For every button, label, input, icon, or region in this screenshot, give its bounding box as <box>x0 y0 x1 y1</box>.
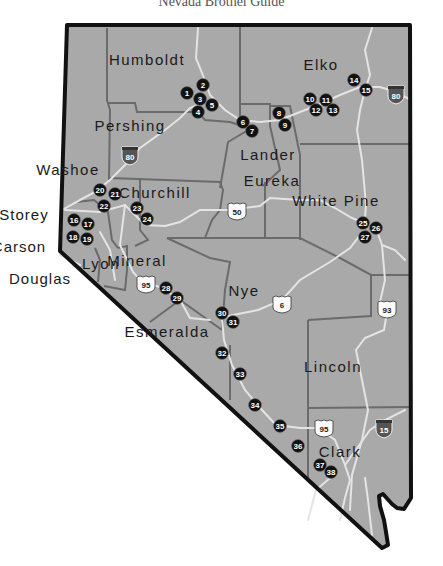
county-label: Eureka <box>244 172 301 189</box>
county-label: Churchill <box>119 184 191 201</box>
svg-text:2: 2 <box>201 81 206 90</box>
location-marker[interactable]: 31 <box>227 316 240 329</box>
us-highway-shield-icon: 95 <box>315 420 333 437</box>
county-label: Lander <box>240 146 296 163</box>
location-marker[interactable]: 38 <box>325 466 338 479</box>
location-marker[interactable]: 23 <box>131 202 144 215</box>
svg-text:37: 37 <box>316 461 325 470</box>
location-marker[interactable]: 4 <box>192 106 205 119</box>
us-highway-shield-icon: 95 <box>137 276 155 293</box>
location-marker[interactable]: 35 <box>274 420 287 433</box>
svg-text:6: 6 <box>280 301 285 310</box>
interstate-shield-icon: 80 <box>122 147 138 165</box>
location-marker[interactable]: 15 <box>360 84 373 97</box>
location-marker[interactable]: 27 <box>359 231 372 244</box>
location-marker[interactable]: 5 <box>206 99 219 112</box>
svg-text:34: 34 <box>251 401 260 410</box>
nevada-map: HumboldtElkoPershingLanderWashoeChurchil… <box>0 0 443 566</box>
svg-text:35: 35 <box>276 422 285 431</box>
location-marker[interactable]: 29 <box>171 292 184 305</box>
location-marker[interactable]: 16 <box>68 214 81 227</box>
svg-text:5: 5 <box>210 101 215 110</box>
svg-text:38: 38 <box>327 468 336 477</box>
location-marker[interactable]: 9 <box>279 119 292 132</box>
svg-text:6: 6 <box>241 118 246 127</box>
svg-text:50: 50 <box>233 208 242 217</box>
location-marker[interactable]: 18 <box>67 231 80 244</box>
svg-text:21: 21 <box>111 190 120 199</box>
location-marker[interactable]: 33 <box>234 368 247 381</box>
location-marker[interactable]: 37 <box>314 459 327 472</box>
svg-text:4: 4 <box>196 108 201 117</box>
svg-text:30: 30 <box>218 309 227 318</box>
svg-text:20: 20 <box>96 186 105 195</box>
svg-text:15: 15 <box>362 86 371 95</box>
svg-text:9: 9 <box>283 121 288 130</box>
svg-text:24: 24 <box>143 215 152 224</box>
county-label: Humboldt <box>109 51 185 68</box>
svg-text:12: 12 <box>312 106 321 115</box>
location-marker[interactable]: 28 <box>160 282 173 295</box>
location-marker[interactable]: 17 <box>82 218 95 231</box>
location-marker[interactable]: 26 <box>370 222 383 235</box>
county-label: Mineral <box>107 252 167 269</box>
svg-text:27: 27 <box>361 233 370 242</box>
svg-text:15: 15 <box>380 426 389 435</box>
county-label: Douglas <box>9 270 71 287</box>
location-marker[interactable]: 7 <box>246 125 259 138</box>
location-marker[interactable]: 34 <box>249 399 262 412</box>
svg-text:31: 31 <box>229 318 238 327</box>
location-marker[interactable]: 8 <box>273 107 286 120</box>
location-marker[interactable]: 1 <box>181 87 194 100</box>
svg-text:95: 95 <box>142 281 151 290</box>
svg-text:7: 7 <box>250 127 255 136</box>
location-marker[interactable]: 20 <box>94 184 107 197</box>
interstate-shield-icon: 15 <box>376 420 392 438</box>
svg-text:17: 17 <box>84 220 93 229</box>
svg-text:14: 14 <box>350 76 359 85</box>
location-marker[interactable]: 32 <box>216 347 229 360</box>
interstate-shield-icon: 80 <box>388 86 404 104</box>
svg-text:22: 22 <box>100 202 109 211</box>
location-marker[interactable]: 25 <box>357 217 370 230</box>
county-label: Carson <box>0 238 46 255</box>
svg-text:16: 16 <box>70 216 79 225</box>
location-marker[interactable]: 2 <box>197 79 210 92</box>
svg-text:23: 23 <box>133 204 142 213</box>
location-marker[interactable]: 3 <box>194 93 207 106</box>
svg-text:13: 13 <box>329 106 338 115</box>
svg-text:1: 1 <box>185 89 190 98</box>
svg-text:8: 8 <box>277 109 282 118</box>
county-label: Lincoln <box>304 358 362 375</box>
svg-text:33: 33 <box>236 370 245 379</box>
svg-text:28: 28 <box>162 284 171 293</box>
location-marker[interactable]: 21 <box>109 188 122 201</box>
svg-text:29: 29 <box>173 294 182 303</box>
county-label: Clark <box>319 443 362 460</box>
svg-text:32: 32 <box>218 349 227 358</box>
county-label: Storey <box>0 206 49 223</box>
county-label: Nye <box>228 282 259 299</box>
svg-text:80: 80 <box>126 153 135 162</box>
location-marker[interactable]: 24 <box>141 213 154 226</box>
location-marker[interactable]: 14 <box>348 74 361 87</box>
county-label: Pershing <box>94 117 165 134</box>
location-marker[interactable]: 36 <box>292 440 305 453</box>
county-label: Elko <box>303 56 338 73</box>
svg-text:11: 11 <box>322 96 331 105</box>
location-marker[interactable]: 12 <box>310 104 323 117</box>
us-highway-shield-icon: 6 <box>273 296 291 313</box>
svg-text:10: 10 <box>306 95 315 104</box>
svg-text:3: 3 <box>198 95 203 104</box>
county-label: Esmeralda <box>124 323 209 340</box>
svg-text:26: 26 <box>372 224 381 233</box>
location-marker[interactable]: 13 <box>327 104 340 117</box>
svg-text:19: 19 <box>83 235 92 244</box>
location-marker[interactable]: 22 <box>98 200 111 213</box>
svg-text:25: 25 <box>359 219 368 228</box>
us-highway-shield-icon: 93 <box>378 301 396 318</box>
county-label: White Pine <box>292 192 380 209</box>
svg-text:80: 80 <box>392 92 401 101</box>
location-marker[interactable]: 19 <box>81 233 94 246</box>
location-marker[interactable]: 30 <box>216 307 229 320</box>
